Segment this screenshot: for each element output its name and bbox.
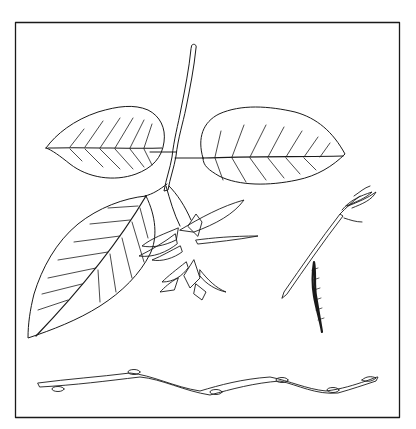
leaf-lower-left: [28, 196, 155, 338]
winter-twig: [38, 370, 378, 396]
leafy-shoot: [28, 44, 345, 338]
leaf-upper-right: [201, 107, 345, 184]
scale-frame: [16, 23, 400, 418]
fruit-bract-cluster: [139, 200, 258, 300]
leaf-upper-left: [46, 106, 164, 178]
illustration-canvas: [0, 0, 416, 429]
botanical-figure: [0, 0, 416, 429]
male-catkin: [313, 262, 323, 332]
main-stem: [164, 44, 196, 191]
flowering-twig-with-catkin: [282, 186, 376, 332]
